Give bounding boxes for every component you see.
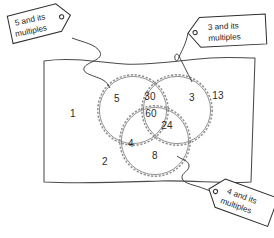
number-8: 8 xyxy=(152,150,158,161)
number-24: 24 xyxy=(161,120,173,131)
tag-multiples-of-4[interactable]: 4 and its multiples xyxy=(0,0,274,238)
number-30: 30 xyxy=(144,91,156,102)
number-13: 13 xyxy=(212,90,224,101)
number-4: 4 xyxy=(128,138,134,149)
venn-diagram-figure: 5 and its multiples 3 and its multiples … xyxy=(0,0,274,238)
number-5: 5 xyxy=(114,93,120,104)
number-60: 60 xyxy=(145,108,157,119)
number-3: 3 xyxy=(189,92,195,103)
number-1: 1 xyxy=(70,108,76,119)
number-2: 2 xyxy=(102,156,108,167)
tag-4-shape xyxy=(204,175,274,226)
